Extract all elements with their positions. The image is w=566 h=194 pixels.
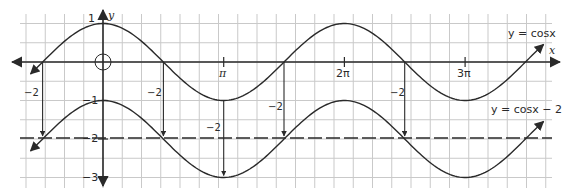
cosine-shift-chart: 1 y −1 −2 −3 π 2π 3π x y = cosx y = cosx… [0,0,566,194]
y-tick-neg-1: −1 [82,94,98,107]
x-tick-2pi: 2π [336,67,350,80]
shift-label-5: −2 [390,87,405,98]
y-axis-label: y [107,9,115,22]
shift-label-2: −2 [147,87,162,98]
x-axis-label: x [549,44,556,57]
x-tick-pi: π [218,67,227,80]
shift-label-4: −2 [268,101,283,112]
y-tick-neg-2: −2 [82,132,98,145]
curve-label-cos-x: y = cosx [508,27,556,40]
x-tick-3pi: 3π [457,67,471,80]
y-tick-1: 1 [88,12,95,25]
shift-label-1: −2 [24,87,39,98]
curve-label-cos-x-minus-2: y = cosx − 2 [491,103,562,116]
shift-label-3: −2 [206,122,221,133]
y-tick-neg-3: −3 [82,171,98,184]
